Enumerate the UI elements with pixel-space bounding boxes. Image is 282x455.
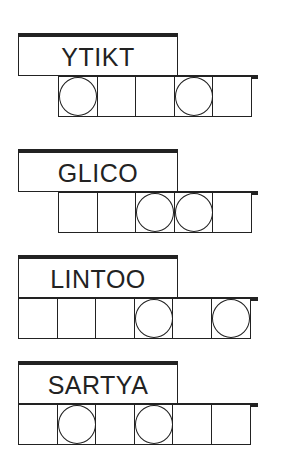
answer-cells [18, 404, 251, 445]
circle-marker-icon [136, 193, 174, 232]
answer-cell[interactable] [172, 298, 212, 339]
answer-cell[interactable] [97, 76, 137, 117]
answer-cell[interactable] [58, 192, 98, 233]
answer-cell-circled[interactable] [135, 192, 175, 233]
answer-cell[interactable] [211, 404, 251, 445]
answer-cell-circled[interactable] [57, 404, 97, 445]
answer-cells [18, 298, 251, 339]
circle-marker-icon [175, 77, 213, 116]
circle-marker-icon [59, 77, 97, 116]
answer-cell[interactable] [18, 298, 58, 339]
answer-cell[interactable] [212, 76, 252, 117]
scrambled-word-box: GLICO [18, 149, 178, 192]
answer-cell[interactable] [212, 192, 252, 233]
answer-cell-circled[interactable] [174, 192, 214, 233]
answer-cell[interactable] [172, 404, 212, 445]
answer-cell[interactable] [57, 298, 97, 339]
answer-cell[interactable] [95, 298, 135, 339]
circle-marker-icon [135, 405, 173, 444]
answer-cell-circled[interactable] [134, 404, 174, 445]
circle-marker-icon [58, 405, 96, 444]
scrambled-word-box: YTIKT [18, 33, 178, 76]
answer-cell[interactable] [135, 76, 175, 117]
scrambled-word-box: SARTYA [18, 361, 178, 404]
circle-marker-icon [212, 299, 250, 338]
answer-cell-circled[interactable] [211, 298, 251, 339]
scrambled-word: YTIKT [61, 41, 134, 72]
answer-cell-circled[interactable] [134, 298, 174, 339]
circle-marker-icon [175, 193, 213, 232]
scrambled-word: SARTYA [48, 369, 149, 400]
scrambled-word: GLICO [58, 157, 138, 188]
answer-cell[interactable] [18, 404, 58, 445]
answer-cell-circled[interactable] [174, 76, 214, 117]
answer-cells [58, 76, 252, 117]
answer-cell-circled[interactable] [58, 76, 98, 117]
answer-cell[interactable] [95, 404, 135, 445]
circle-marker-icon [135, 299, 173, 338]
answer-cells [58, 192, 252, 233]
answer-cell[interactable] [97, 192, 137, 233]
scrambled-word-box: LINTOO [18, 255, 178, 298]
scrambled-word: LINTOO [50, 263, 146, 294]
